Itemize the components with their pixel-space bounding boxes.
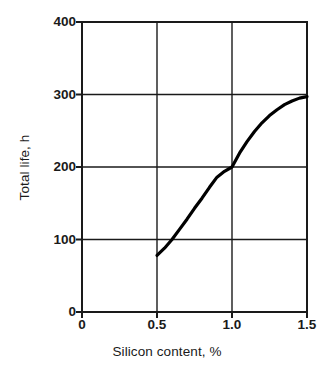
x-axis-title: Silicon content, % — [0, 344, 334, 359]
x-tick-0: 0 — [52, 318, 112, 332]
x-tick-0.5: 0.5 — [127, 318, 187, 332]
chart-figure: Total life, h 400 300 200 100 0 0 0.5 1.… — [0, 0, 334, 370]
x-tick-1.0: 1.0 — [202, 318, 262, 332]
plot-area — [0, 0, 334, 370]
x-tick-1.5: 1.5 — [277, 318, 334, 332]
